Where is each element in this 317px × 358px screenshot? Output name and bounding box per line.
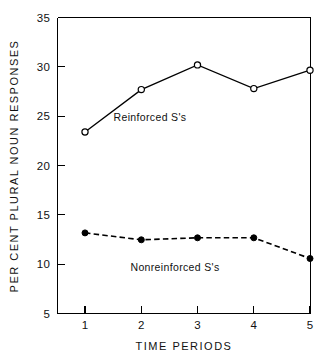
series-reinforced-point-5 — [307, 67, 313, 73]
series-nonreinforced-point-1 — [82, 230, 88, 236]
line-chart-canvas: 35 30 25 20 15 10 5 1 2 3 4 5 TIME PERIO… — [0, 0, 317, 358]
chart-figure: 35 30 25 20 15 10 5 1 2 3 4 5 TIME PERIO… — [0, 0, 317, 358]
series-nonreinforced-point-4 — [251, 235, 257, 241]
x-tick-label-5: 5 — [307, 319, 314, 331]
x-axis-ticks — [85, 306, 310, 314]
x-tick-label-2: 2 — [138, 319, 145, 331]
y-axis-tick-labels: 35 30 25 20 15 10 5 — [37, 12, 50, 320]
series-nonreinforced — [82, 230, 313, 262]
series-nonreinforced-point-2 — [138, 237, 144, 243]
y-tick-label-5: 5 — [43, 308, 50, 320]
y-axis-title: PER CENT PLURAL NOUN RESPONSES — [8, 40, 20, 293]
series-label-nonreinforced: Nonreinforced S's — [130, 261, 219, 273]
x-axis-title: TIME PERIODS — [136, 340, 233, 352]
y-tick-label-20: 20 — [37, 160, 50, 172]
x-tick-label-1: 1 — [82, 319, 89, 331]
series-reinforced-point-3 — [194, 62, 200, 68]
y-tick-label-25: 25 — [37, 110, 50, 122]
x-tick-label-4: 4 — [250, 319, 257, 331]
series-label-reinforced: Reinforced S's — [114, 111, 187, 123]
series-reinforced-point-2 — [138, 87, 144, 93]
series-nonreinforced-point-3 — [195, 235, 201, 241]
series-reinforced-point-4 — [251, 86, 257, 92]
y-tick-label-10: 10 — [37, 258, 50, 270]
series-reinforced-point-1 — [82, 129, 88, 135]
y-tick-label-15: 15 — [37, 209, 50, 221]
series-reinforced — [82, 62, 313, 135]
x-axis-tick-labels: 1 2 3 4 5 — [82, 319, 314, 331]
y-axis-ticks — [58, 18, 65, 314]
series-nonreinforced-point-5 — [307, 256, 313, 262]
y-tick-label-35: 35 — [37, 12, 50, 24]
x-tick-label-3: 3 — [194, 319, 201, 331]
y-tick-label-30: 30 — [37, 61, 50, 73]
